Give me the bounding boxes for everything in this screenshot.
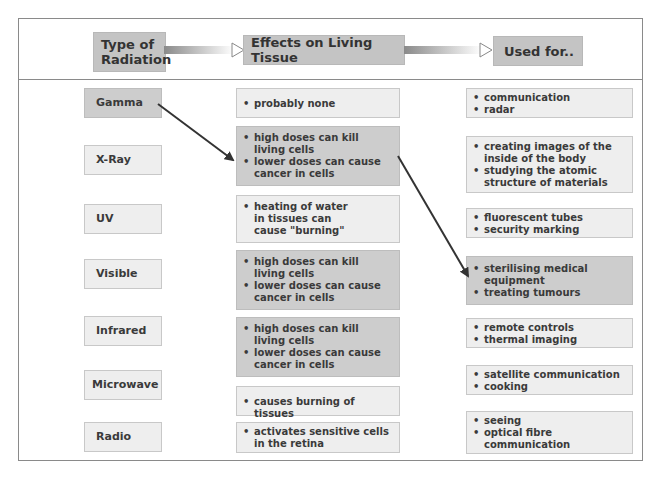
- use-infrared: remote controlsthermal imaging: [466, 318, 633, 348]
- radiation-microwave: Microwave: [84, 370, 162, 400]
- effect-item: high doses can kill living cells: [243, 256, 393, 280]
- radiation-label: UV: [96, 213, 113, 225]
- effect-item: probably none: [243, 98, 393, 110]
- use-gamma: communicationradar: [466, 88, 633, 118]
- effect-item: lower doses can cause cancer in cells: [243, 156, 393, 180]
- use-item: thermal imaging: [473, 334, 626, 346]
- use-item: remote controls: [473, 322, 626, 334]
- radiation-label: Infrared: [96, 325, 146, 337]
- effect-item: high doses can kill living cells: [243, 132, 393, 156]
- effect-item: lower doses can cause cancer in cells: [243, 347, 393, 371]
- radiation-gamma: Gamma: [84, 88, 162, 118]
- effect-radio: activates sensitive cells in the retina: [236, 422, 400, 453]
- radiation-x-ray: X-Ray: [84, 145, 162, 175]
- header-col1-line2: Radiation: [101, 52, 171, 67]
- use-item: creating images of the inside of the bod…: [473, 141, 626, 165]
- header-type-of-radiation: Type of Radiation: [93, 32, 166, 72]
- use-x-ray: creating images of the inside of the bod…: [466, 136, 633, 193]
- use-uv: fluorescent tubessecurity marking: [466, 208, 633, 238]
- header-arrow-right-icon: [164, 42, 246, 58]
- radiation-infrared: Infrared: [84, 316, 162, 346]
- use-item: security marking: [473, 224, 626, 236]
- header-used-for: Used for..: [493, 36, 583, 66]
- header-divider: [18, 79, 643, 80]
- radiation-label: Microwave: [92, 379, 158, 391]
- effect-item: causes burning of tissues: [243, 396, 393, 420]
- header-col1-line1: Type of: [101, 37, 154, 52]
- use-microwave: satellite communicationcooking: [466, 365, 633, 395]
- radiation-label: Radio: [96, 431, 131, 443]
- radiation-label: Visible: [96, 268, 138, 280]
- use-item: seeing: [473, 415, 582, 427]
- use-item: treating tumours: [473, 287, 592, 299]
- effect-item: high doses can kill living cells: [243, 323, 393, 347]
- use-item: optical fibre communication: [473, 427, 582, 451]
- use-item: fluorescent tubes: [473, 212, 626, 224]
- radiation-label: X-Ray: [96, 154, 131, 166]
- use-item: sterilising medical equipment: [473, 263, 592, 287]
- radiation-visible: Visible: [84, 259, 162, 289]
- effect-item: activates sensitive cells in the retina: [243, 426, 393, 450]
- effect-x-ray: high doses can kill living cellslower do…: [236, 126, 400, 186]
- use-item: studying the atomic structure of materia…: [473, 165, 626, 189]
- use-item: radar: [473, 104, 626, 116]
- radiation-label: Gamma: [96, 97, 143, 109]
- header-col2-label: Effects on Living Tissue: [251, 35, 404, 65]
- radiation-radio: Radio: [84, 422, 162, 452]
- use-item: satellite communication: [473, 369, 626, 381]
- effect-item: heating of water in tissues can cause "b…: [243, 201, 359, 237]
- effect-microwave: causes burning of tissues: [236, 386, 400, 416]
- effect-infrared: high doses can kill living cellslower do…: [236, 317, 400, 377]
- effect-item: lower doses can cause cancer in cells: [243, 280, 393, 304]
- header-col3-label: Used for..: [504, 44, 574, 59]
- header-arrow-right-icon: [404, 42, 494, 58]
- use-item: cooking: [473, 381, 626, 393]
- use-visible: sterilising medical equipmenttreating tu…: [466, 256, 633, 305]
- use-radio: seeingoptical fibre communication: [466, 411, 633, 454]
- effect-visible: high doses can kill living cellslower do…: [236, 250, 400, 310]
- radiation-uv: UV: [84, 204, 162, 234]
- header-effects-on-living-tissue: Effects on Living Tissue: [243, 35, 405, 65]
- effect-uv: heating of water in tissues can cause "b…: [236, 195, 400, 243]
- use-item: communication: [473, 92, 626, 104]
- effect-gamma: probably none: [236, 88, 400, 118]
